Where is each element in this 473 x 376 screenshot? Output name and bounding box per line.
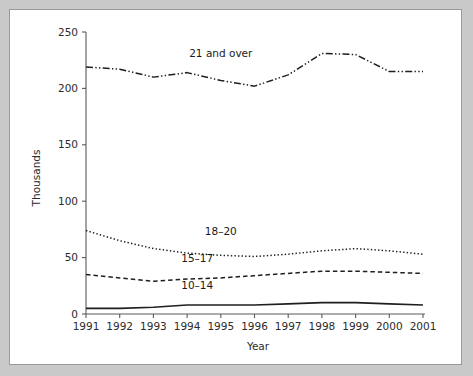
x-tick-label: 1992 — [106, 320, 133, 332]
x-tick-label: 1998 — [309, 320, 336, 332]
y-tick-label: 50 — [65, 251, 78, 263]
series-line-18-20 — [86, 231, 423, 257]
figure-frame: 050100150200250 199119921993199419951996… — [9, 9, 462, 365]
x-tick-label: 1994 — [174, 320, 201, 332]
x-tick-label: 1995 — [207, 320, 234, 332]
x-tick-label: 1993 — [140, 320, 167, 332]
series-label-18-20: 18–20 — [205, 225, 237, 237]
series-line-15-17 — [86, 271, 423, 281]
series-label-15-17: 15–17 — [181, 252, 213, 264]
series-lines — [86, 53, 423, 308]
y-tick-label: 250 — [58, 26, 78, 38]
x-tick-label: 1991 — [73, 320, 100, 332]
series-line-21-and-over — [86, 53, 423, 86]
x-tick-label: 1996 — [241, 320, 268, 332]
y-tick-label: 150 — [58, 138, 78, 150]
x-tick-label: 1997 — [275, 320, 302, 332]
series-label-10-14: 10–14 — [181, 279, 213, 291]
series-line-10-14 — [86, 303, 423, 309]
series-label-21-and-over: 21 and over — [189, 47, 253, 59]
y-tick-label: 100 — [58, 195, 78, 207]
y-axis: 050100150200250 — [58, 26, 86, 320]
x-axis: 1991199219931994199519961997199819992000… — [73, 314, 437, 332]
y-axis-title: Thousands — [30, 150, 42, 208]
x-axis-title: Year — [246, 340, 270, 352]
x-tick-label: 2001 — [410, 320, 437, 332]
y-tick-label: 200 — [58, 82, 78, 94]
line-chart: 050100150200250 199119921993199419951996… — [10, 10, 463, 366]
y-tick-label: 0 — [71, 308, 78, 320]
x-tick-label: 2000 — [376, 320, 403, 332]
x-tick-label: 1999 — [342, 320, 369, 332]
